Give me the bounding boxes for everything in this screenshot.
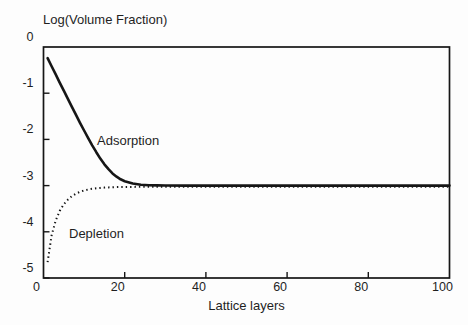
- y-axis-tick-label: -2: [22, 122, 33, 136]
- adsorption-curve: [48, 58, 450, 186]
- x-axis-tick-label: 0: [33, 280, 40, 294]
- y-axis-tick-label: 0: [27, 30, 34, 44]
- chart-figure: 0-1-2-3-4-5020406080100Log(Volume Fracti…: [0, 0, 468, 325]
- adsorption-curve-label: Adsorption: [97, 133, 159, 148]
- depletion-curve-label: Depletion: [69, 226, 124, 241]
- line-chart-svg: 0-1-2-3-4-5020406080100Log(Volume Fracti…: [0, 0, 468, 325]
- y-axis-tick-label: -4: [22, 215, 33, 229]
- x-axis-tick-label: 40: [192, 280, 206, 294]
- depletion-curve: [48, 187, 450, 262]
- y-axis-tick-label: -3: [22, 169, 33, 183]
- y-axis-tick-label: -1: [22, 76, 33, 90]
- x-axis-tick-label: 100: [432, 280, 453, 294]
- chart-title: Log(Volume Fraction): [43, 12, 167, 27]
- y-axis-tick-label: -5: [22, 261, 33, 275]
- x-axis-title: Lattice layers: [208, 298, 285, 313]
- x-axis-tick-label: 80: [354, 280, 368, 294]
- x-axis-tick-label: 20: [111, 280, 125, 294]
- x-axis-tick-label: 60: [273, 280, 287, 294]
